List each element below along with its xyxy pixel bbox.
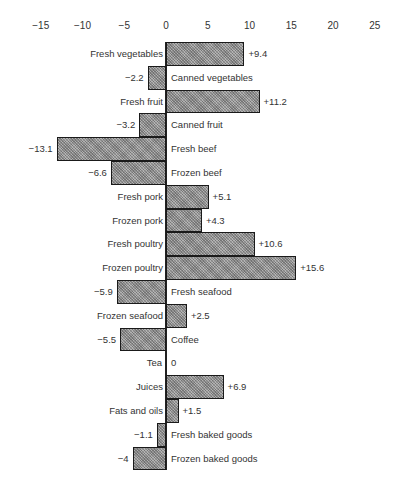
category-label: Fats and oils — [109, 405, 163, 417]
category-label: Fresh pork — [118, 191, 163, 203]
bar — [166, 209, 202, 233]
bar — [166, 375, 224, 399]
category-label: Juices — [136, 381, 163, 393]
x-tick-label: 20 — [327, 20, 338, 31]
bar — [166, 185, 209, 209]
value-label: +11.2 — [264, 96, 287, 108]
x-tick-label: 15 — [286, 20, 297, 31]
bar — [166, 232, 255, 256]
category-label: Tea — [147, 357, 162, 369]
bar — [166, 90, 260, 114]
value-label: +4.3 — [206, 215, 225, 227]
value-label: −5.5 — [97, 334, 116, 346]
x-tick-label: 10 — [244, 20, 255, 31]
category-label: Frozen seafood — [97, 310, 163, 322]
bar — [148, 66, 166, 90]
value-label: −1.1 — [134, 429, 153, 441]
x-tick-label: −5 — [119, 20, 130, 31]
category-label: Canned fruit — [171, 119, 223, 131]
value-label: +1.5 — [183, 405, 202, 417]
value-label: +6.9 — [228, 381, 247, 393]
bar — [133, 447, 166, 471]
category-label: Frozen baked goods — [171, 453, 258, 465]
value-label: −2.2 — [125, 72, 144, 84]
bar — [166, 399, 179, 423]
value-label: +2.5 — [191, 310, 210, 322]
value-label: +10.6 — [259, 238, 283, 250]
bar — [139, 113, 166, 137]
category-label: Coffee — [171, 334, 199, 346]
value-label: −13.1 — [29, 143, 53, 155]
category-label: Fresh beef — [171, 143, 216, 155]
value-label: +15.6 — [300, 262, 324, 274]
x-tick-label: −15 — [32, 20, 49, 31]
bar — [117, 280, 166, 304]
bar — [166, 304, 187, 328]
value-label: −6.6 — [88, 167, 107, 179]
value-label: +9.4 — [248, 48, 267, 60]
bar — [166, 256, 296, 280]
bar — [166, 42, 244, 66]
category-label: Fresh seafood — [171, 286, 232, 298]
x-tick-label: 5 — [205, 20, 211, 31]
x-tick-label: 0 — [163, 20, 169, 31]
x-tick-label: 25 — [369, 20, 380, 31]
bar — [120, 328, 166, 352]
value-label: −5.9 — [94, 286, 113, 298]
value-label: 0 — [171, 357, 176, 369]
value-label: −4 — [118, 453, 129, 465]
category-label: Frozen beef — [171, 167, 222, 179]
category-label: Fresh vegetables — [90, 48, 163, 60]
bar — [57, 137, 166, 161]
horizontal-bar-chart: −15−10−50510152025 Fresh vegetables+9.4C… — [0, 0, 400, 497]
x-tick-label: −10 — [74, 20, 91, 31]
category-label: Frozen pork — [112, 215, 163, 227]
value-label: −3.2 — [117, 119, 136, 131]
category-label: Frozen poultry — [102, 262, 163, 274]
bar — [157, 423, 166, 447]
value-label: +5.1 — [213, 191, 232, 203]
category-label: Fresh fruit — [120, 96, 163, 108]
category-label: Fresh poultry — [108, 238, 163, 250]
category-label: Canned vegetables — [171, 72, 253, 84]
category-label: Fresh baked goods — [171, 429, 252, 441]
bar — [111, 161, 166, 185]
